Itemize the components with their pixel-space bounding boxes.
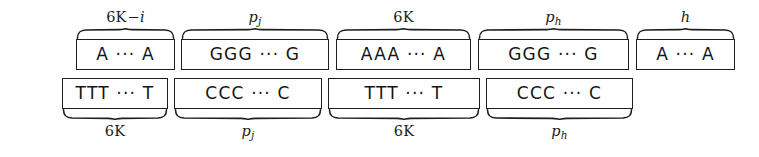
bottom-brace-4 xyxy=(486,109,633,120)
top-label-1-main: 6K xyxy=(106,9,126,25)
top-block-5: A ··· A xyxy=(636,39,735,70)
top-block-3-text: AAA ··· A xyxy=(361,46,446,63)
bottom-label-2: pj xyxy=(174,124,322,140)
top-block-4: GGG ··· G xyxy=(478,39,629,70)
bottom-label-4-sub: h xyxy=(561,129,568,141)
top-label-4: ph xyxy=(478,10,629,26)
top-block-1-text: A ··· A xyxy=(96,46,155,63)
top-brace-5 xyxy=(636,28,735,39)
bottom-block-3: TTT ··· T xyxy=(328,78,480,109)
top-label-1-op: − xyxy=(127,9,140,25)
top-brace-3 xyxy=(336,28,471,39)
bottom-block-2-text: CCC ··· C xyxy=(205,85,290,102)
bottom-brace-2 xyxy=(174,109,322,120)
top-label-2-sub: j xyxy=(258,15,261,27)
bottom-block-3-text: TTT ··· T xyxy=(365,85,444,102)
bottom-brace-3 xyxy=(328,109,480,120)
top-label-5-main: h xyxy=(681,9,691,25)
top-label-1-sub: i xyxy=(140,9,145,25)
top-label-4-main: p xyxy=(545,9,554,25)
top-label-2-main: p xyxy=(249,9,258,25)
top-label-5: h xyxy=(636,10,735,25)
bottom-label-4-main: p xyxy=(551,123,560,139)
bottom-block-1: TTT ··· T xyxy=(62,78,168,109)
bottom-label-4: ph xyxy=(486,124,633,140)
top-block-1: A ··· A xyxy=(76,39,175,70)
top-label-3: 6K xyxy=(336,10,471,25)
top-label-2: pj xyxy=(181,10,329,26)
bottom-block-4: CCC ··· C xyxy=(486,78,633,109)
bottom-label-1: 6K xyxy=(62,124,168,139)
bottom-block-2: CCC ··· C xyxy=(174,78,322,109)
bottom-label-2-main: p xyxy=(242,123,251,139)
top-brace-1 xyxy=(76,28,175,39)
top-label-3-main: 6K xyxy=(393,9,413,25)
bottom-label-3-main: 6K xyxy=(394,123,414,139)
sequence-construction-figure: 6K−i pj 6K ph h A ··· A xyxy=(0,0,759,157)
top-block-4-text: GGG ··· G xyxy=(508,46,599,63)
top-brace-2 xyxy=(181,28,329,39)
bottom-label-1-main: 6K xyxy=(105,123,125,139)
top-block-3: AAA ··· A xyxy=(336,39,471,70)
bottom-label-2-sub: j xyxy=(251,129,254,141)
top-block-2: GGG ··· G xyxy=(181,39,329,70)
bottom-brace-1 xyxy=(62,109,168,120)
bottom-label-3: 6K xyxy=(328,124,480,139)
top-block-5-text: A ··· A xyxy=(656,46,715,63)
top-block-2-text: GGG ··· G xyxy=(210,46,301,63)
bottom-block-4-text: CCC ··· C xyxy=(517,85,602,102)
top-brace-4 xyxy=(478,28,629,39)
bottom-block-1-text: TTT ··· T xyxy=(76,85,155,102)
top-label-1: 6K−i xyxy=(76,10,175,25)
top-label-4-sub: h xyxy=(555,15,562,27)
